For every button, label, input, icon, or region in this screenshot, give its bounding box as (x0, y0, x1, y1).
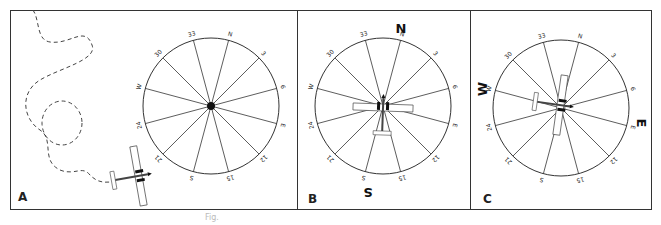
svg-text:30: 30 (153, 48, 163, 58)
svg-text:3: 3 (260, 49, 268, 57)
flight-path (26, 10, 110, 182)
panel-a-label: A (18, 190, 27, 204)
svg-text:6: 6 (451, 84, 459, 90)
svg-text:24: 24 (134, 121, 143, 130)
cardinal-e-c: E (634, 119, 649, 128)
svg-text:W: W (307, 83, 315, 91)
svg-text:N: N (577, 32, 583, 40)
svg-text:S: S (361, 174, 367, 182)
svg-text:21: 21 (153, 154, 163, 164)
svg-text:21: 21 (503, 156, 513, 166)
svg-text:15: 15 (576, 176, 585, 185)
cardinal-w-c: W (475, 82, 490, 96)
cardinal-n-b: N (396, 21, 407, 36)
svg-text:6: 6 (279, 84, 287, 90)
svg-text:33: 33 (187, 29, 196, 38)
cardinal-s-b: S (363, 185, 372, 200)
panel-c-label: C (483, 192, 492, 206)
svg-text:W: W (135, 83, 143, 91)
svg-text:S: S (539, 176, 545, 184)
svg-text:33: 33 (359, 29, 368, 38)
compass-diagram: N36E1215S2124W3033N36E1215S2124W3033N36E… (0, 0, 661, 225)
svg-text:15: 15 (398, 174, 407, 183)
svg-text:33: 33 (537, 31, 546, 40)
svg-text:3: 3 (432, 49, 440, 57)
svg-text:30: 30 (325, 48, 335, 58)
svg-text:12: 12 (431, 154, 441, 164)
airplane-a (106, 144, 157, 210)
svg-text:N: N (227, 30, 233, 38)
airplane-b (352, 93, 413, 136)
svg-text:E: E (451, 123, 459, 129)
figure-caption: Fig. (205, 213, 219, 222)
compass-rose-a: N36E1215S2124W3033 (134, 29, 287, 182)
svg-text:12: 12 (259, 154, 269, 164)
svg-text:24: 24 (484, 123, 493, 132)
svg-text:6: 6 (629, 86, 637, 92)
svg-text:24: 24 (306, 121, 315, 130)
svg-text:12: 12 (609, 156, 619, 166)
svg-text:S: S (189, 174, 195, 182)
svg-text:E: E (279, 123, 287, 129)
svg-text:30: 30 (503, 50, 513, 60)
panel-b-label: B (308, 192, 317, 206)
svg-text:15: 15 (226, 174, 235, 183)
flight-loop (42, 101, 82, 145)
svg-text:3: 3 (610, 51, 618, 59)
svg-text:21: 21 (325, 154, 335, 164)
